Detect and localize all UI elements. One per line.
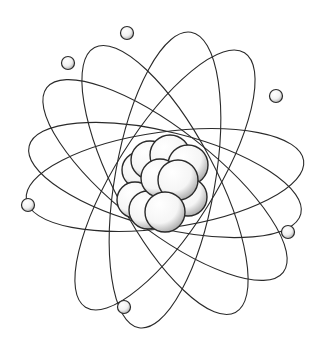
electron bbox=[270, 90, 283, 103]
electron bbox=[62, 57, 75, 70]
electron bbox=[118, 301, 131, 314]
nucleus bbox=[117, 135, 208, 232]
atom-illustration: Atom model illustration bbox=[0, 0, 329, 345]
electron bbox=[121, 27, 134, 40]
atom-drawing bbox=[0, 0, 329, 345]
nucleon bbox=[145, 192, 185, 232]
electron bbox=[282, 226, 295, 239]
electron bbox=[22, 199, 35, 212]
